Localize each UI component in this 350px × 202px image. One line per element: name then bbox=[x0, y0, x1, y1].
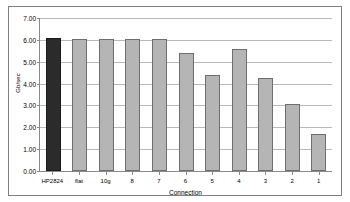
x-tick-mark bbox=[186, 172, 187, 175]
x-tick-label: 1 bbox=[305, 177, 332, 185]
bar-2[interactable] bbox=[285, 104, 300, 171]
x-tick-slot: 2 bbox=[279, 172, 306, 188]
x-tick-mark bbox=[52, 172, 53, 175]
y-tick-label: 5.00 bbox=[23, 58, 36, 65]
x-tick-mark bbox=[239, 172, 240, 175]
y-tick-label: 4.00 bbox=[23, 80, 36, 87]
bar-3[interactable] bbox=[258, 78, 273, 171]
bar-5[interactable] bbox=[205, 75, 220, 171]
x-tick-label: 6 bbox=[172, 177, 199, 185]
bar-6[interactable] bbox=[179, 53, 194, 171]
x-tick-label: HP2824 bbox=[39, 177, 66, 185]
plot-area: 7.006.005.004.003.002.001.000.00 bbox=[39, 18, 332, 172]
bar-8[interactable] bbox=[125, 39, 140, 171]
bar-1[interactable] bbox=[311, 134, 326, 171]
x-tick-slot: 5 bbox=[199, 172, 226, 188]
x-tick-mark bbox=[319, 172, 320, 175]
bar-slot bbox=[173, 18, 200, 171]
bar-HP2824[interactable] bbox=[46, 38, 61, 171]
x-tick-mark bbox=[132, 172, 133, 175]
x-tick-label: 10g bbox=[92, 177, 119, 185]
bar-10g[interactable] bbox=[99, 39, 114, 171]
bar-7[interactable] bbox=[152, 39, 167, 171]
x-tick-label: 5 bbox=[199, 177, 226, 185]
x-tick-mark bbox=[212, 172, 213, 175]
x-tick-mark bbox=[106, 172, 107, 175]
x-tick-slot: 6 bbox=[172, 172, 199, 188]
bar-slot bbox=[120, 18, 147, 171]
y-tick-label: 1.00 bbox=[23, 146, 36, 153]
y-tick-label: 0.00 bbox=[23, 168, 36, 175]
bar-slot bbox=[199, 18, 226, 171]
x-tick-mark bbox=[79, 172, 80, 175]
bar-slot bbox=[305, 18, 332, 171]
x-tick-label: 4 bbox=[225, 177, 252, 185]
bars-container bbox=[40, 18, 332, 171]
bar-4[interactable] bbox=[232, 49, 247, 171]
x-tick-label: 7 bbox=[146, 177, 173, 185]
bar-slot bbox=[67, 18, 94, 171]
bar-slot bbox=[279, 18, 306, 171]
x-tick-slot: 3 bbox=[252, 172, 279, 188]
bar-slot bbox=[252, 18, 279, 171]
x-tick-slot: flat bbox=[66, 172, 93, 188]
x-tick-slot: 7 bbox=[146, 172, 173, 188]
x-axis-tick-labels: HP2824flat10g87654321 bbox=[39, 172, 332, 188]
y-tick-label: 7.00 bbox=[23, 15, 36, 22]
x-tick-mark bbox=[159, 172, 160, 175]
bar-slot bbox=[146, 18, 173, 171]
x-tick-label: 2 bbox=[279, 177, 306, 185]
bar-slot bbox=[226, 18, 253, 171]
x-tick-mark bbox=[265, 172, 266, 175]
x-tick-slot: HP2824 bbox=[39, 172, 66, 188]
bar-slot bbox=[40, 18, 67, 171]
x-tick-mark bbox=[292, 172, 293, 175]
x-tick-slot: 10g bbox=[92, 172, 119, 188]
x-tick-slot: 4 bbox=[225, 172, 252, 188]
x-tick-label: 8 bbox=[119, 177, 146, 185]
bar-flat[interactable] bbox=[72, 39, 87, 171]
bar-chart: Gb/sec 7.006.005.004.003.002.001.000.00 … bbox=[0, 0, 350, 202]
x-tick-label: flat bbox=[66, 177, 93, 185]
bar-slot bbox=[93, 18, 120, 171]
y-tick-label: 2.00 bbox=[23, 124, 36, 131]
x-tick-slot: 1 bbox=[305, 172, 332, 188]
y-tick-label: 6.00 bbox=[23, 36, 36, 43]
y-tick-label: 3.00 bbox=[23, 102, 36, 109]
x-tick-slot: 8 bbox=[119, 172, 146, 188]
x-tick-label: 3 bbox=[252, 177, 279, 185]
y-axis-title: Gb/sec bbox=[13, 38, 23, 128]
x-axis-title: Connection bbox=[39, 188, 332, 197]
